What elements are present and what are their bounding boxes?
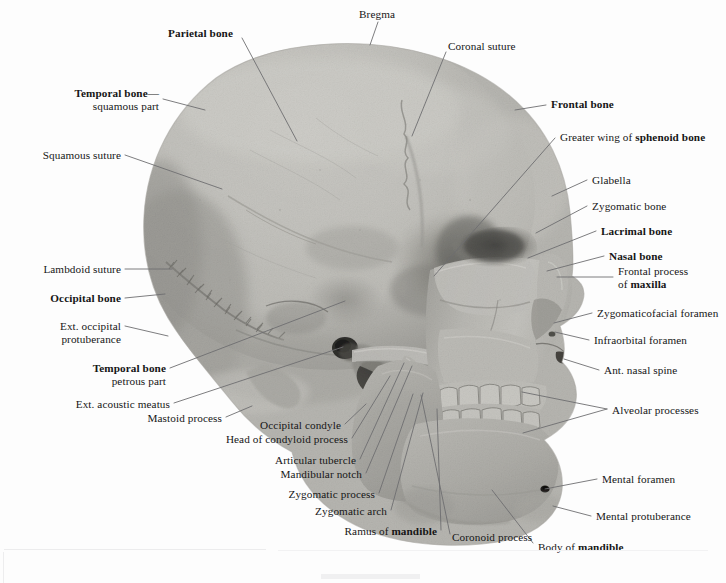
scan-artifact-rule-right [278, 550, 708, 551]
label-infraorbital-foramen: Infraorbital foramen [594, 334, 726, 347]
anatomy-plate: BregmaParietal boneCoronal sutureTempora… [0, 0, 726, 583]
label-nasal-bone: Nasal bone [609, 250, 726, 263]
label-articular-tubercle: Articular tubercle [0, 454, 356, 467]
label-coronal-suture: Coronal suture [448, 40, 578, 53]
label-temporal-squamous: Temporal bone—squamous part [0, 87, 159, 112]
label-bregma: Bregma [359, 8, 479, 21]
label-lacrimal-bone: Lacrimal bone [601, 225, 726, 238]
label-occipital-condyle: Occipital condyle [0, 419, 341, 432]
label-glabella: Glabella [592, 174, 712, 187]
label-frontal-bone: Frontal bone [551, 98, 681, 111]
label-zygomatic-process: Zygomatic process [0, 488, 375, 501]
label-mental-protuberance: Mental protuberance [596, 510, 726, 523]
label-alveolar-processes: Alveolar processes [612, 404, 726, 417]
scan-artifact-rule-left [4, 549, 266, 550]
label-ext-occipital-protuberance: Ext. occipitalprotuberance [0, 320, 121, 345]
label-occipital-bone: Occipital bone [0, 292, 121, 305]
scan-artifact-edge [3, 552, 4, 583]
label-parietal-bone: Parietal bone [168, 27, 298, 40]
label-body-of-mandible: Body of mandible [538, 541, 658, 554]
label-ramus-of-mandible: Ramus of mandible [0, 525, 437, 538]
label-lambdoid-suture: Lambdoid suture [0, 263, 121, 276]
label-zygomatic-arch: Zygomatic arch [0, 505, 387, 518]
label-zygomaticofacial-foramen: Zygomaticofacial foramen [597, 307, 726, 320]
scan-artifact-box [321, 574, 420, 579]
label-ant-nasal-spine: Ant. nasal spine [604, 364, 726, 377]
label-temporal-petrous: Temporal bonepetrous part [0, 362, 166, 387]
label-ext-acoustic-meatus: Ext. acoustic meatus [0, 398, 170, 411]
label-frontal-process-maxilla: Frontal processof maxilla [618, 265, 726, 290]
label-mental-foramen: Mental foramen [602, 473, 726, 486]
label-zygomatic-bone: Zygomatic bone [592, 200, 722, 213]
label-squamous-suture: Squamous suture [0, 149, 121, 162]
label-mandibular-notch: Mandibular notch [0, 468, 362, 481]
label-head-condyloid-process: Head of condyloid process [0, 433, 348, 446]
label-sphenoid-wing: Greater wing of sphenoid bone [560, 131, 725, 144]
